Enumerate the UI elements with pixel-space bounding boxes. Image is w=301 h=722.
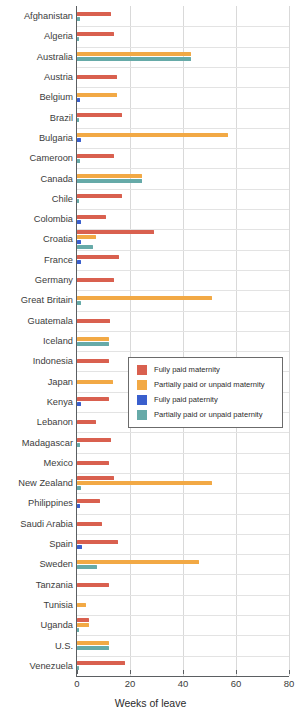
legend-label: Fully paid maternity	[154, 365, 220, 375]
bar	[77, 481, 212, 485]
bar	[77, 397, 109, 401]
grid-line-horizontal	[77, 168, 289, 169]
legend-label: Partially paid or unpaid maternity	[154, 380, 265, 390]
category-label: Spain	[49, 539, 73, 549]
category-label: Algeria	[44, 31, 73, 41]
bar	[77, 194, 122, 198]
bar	[77, 646, 109, 650]
bar	[77, 174, 142, 178]
category-label: Venezuela	[30, 661, 73, 671]
bar	[77, 618, 89, 622]
x-tick-label: 80	[284, 678, 295, 689]
grid-line-horizontal	[77, 87, 289, 88]
category-label: U.S.	[55, 641, 73, 651]
category-label: Bulgaria	[39, 133, 73, 143]
grid-line-horizontal	[77, 189, 289, 190]
legend-swatch-icon	[137, 410, 147, 420]
grid-line	[236, 6, 237, 676]
bar	[77, 438, 111, 442]
category-label: Tunisia	[43, 600, 73, 610]
bar	[77, 565, 97, 569]
bar	[77, 93, 117, 97]
bar	[77, 583, 109, 587]
legend-item[interactable]: Fully paid paternity	[137, 395, 276, 405]
bar	[77, 245, 93, 249]
bar	[77, 32, 114, 36]
bar	[77, 380, 113, 384]
category-label: Philippines	[28, 498, 73, 508]
category-label: Guatemala	[28, 316, 73, 326]
category-label: Lebanon	[37, 417, 73, 427]
legend-item[interactable]: Partially paid or unpaid maternity	[137, 380, 276, 390]
grid-line-horizontal	[77, 331, 289, 332]
legend-item[interactable]: Fully paid maternity	[137, 365, 276, 375]
bar	[77, 260, 81, 264]
category-label: Austria	[44, 72, 73, 82]
bar	[77, 240, 81, 244]
bar	[77, 402, 81, 406]
bar	[77, 133, 228, 137]
bar	[77, 476, 114, 480]
bar	[77, 486, 81, 490]
bar	[77, 118, 79, 122]
grid-line-horizontal	[77, 148, 289, 149]
legend: Fully paid maternityPartially paid or un…	[128, 357, 283, 428]
legend-item[interactable]: Partially paid or unpaid paternity	[137, 410, 276, 420]
bar-chart: AfghanistanAlgeriaAustraliaAustriaBelgiu…	[0, 0, 301, 722]
category-label: Sweden	[39, 559, 73, 569]
category-label: Croatia	[43, 234, 73, 244]
category-label: Great Britain	[21, 295, 73, 305]
bar	[77, 420, 96, 424]
bar	[77, 504, 80, 508]
bar	[77, 255, 119, 259]
x-tick-mark	[183, 670, 184, 674]
legend-swatch-icon	[137, 365, 147, 375]
legend-label: Partially paid or unpaid paternity	[154, 410, 263, 420]
category-label: Japan	[48, 377, 73, 387]
category-label: Chile	[52, 194, 73, 204]
x-tick-mark	[289, 670, 290, 674]
bar	[77, 154, 114, 158]
bar	[77, 359, 109, 363]
bar	[77, 220, 81, 224]
category-label: Mexico	[44, 458, 73, 468]
x-tick-label: 0	[74, 678, 79, 689]
bar	[77, 199, 79, 203]
x-tick-label: 20	[125, 678, 136, 689]
category-label: Madagascar	[22, 438, 73, 448]
grid-line-horizontal	[77, 574, 289, 575]
grid-line-horizontal	[77, 250, 289, 251]
x-tick-label: 60	[231, 678, 242, 689]
category-label: Indonesia	[33, 356, 73, 366]
category-label: Colombia	[34, 214, 73, 224]
bar	[77, 296, 212, 300]
grid-line	[183, 6, 184, 676]
bar	[77, 603, 86, 607]
bar	[77, 98, 80, 102]
bar	[77, 443, 80, 447]
grid-line-horizontal	[77, 453, 289, 454]
bar	[77, 342, 109, 346]
category-label: Iceland	[43, 336, 73, 346]
grid-line-horizontal	[77, 128, 289, 129]
bar	[77, 37, 79, 41]
x-axis-title: Weeks of leave	[0, 697, 301, 709]
legend-swatch-icon	[137, 380, 147, 390]
grid-line-horizontal	[77, 270, 289, 271]
bar	[77, 12, 111, 16]
bar	[77, 499, 100, 503]
legend-label: Fully paid paternity	[154, 395, 218, 405]
grid-line-horizontal	[77, 290, 289, 291]
bar	[77, 52, 191, 56]
category-label: Saudi Arabia	[20, 519, 73, 529]
x-tick-mark	[77, 670, 78, 674]
bar	[77, 301, 81, 305]
category-label: Uganda	[40, 620, 73, 630]
bar	[77, 461, 109, 465]
x-tick-mark	[130, 670, 131, 674]
category-label: Brazil	[50, 113, 73, 123]
grid-line-horizontal	[77, 615, 289, 616]
bar	[77, 75, 117, 79]
bar	[77, 540, 118, 544]
bar	[77, 278, 114, 282]
